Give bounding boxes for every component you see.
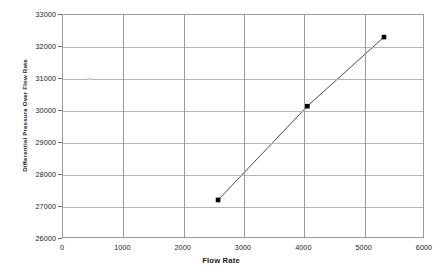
plot-area: [62, 14, 424, 238]
y-tick-label: 33000: [12, 10, 56, 19]
y-tick-label: 29000: [12, 138, 56, 147]
y-axis-title: Differential Pressure Over Flow Rate: [21, 26, 28, 206]
y-tick-label: 31000: [12, 74, 56, 83]
y-tick-mark: [58, 206, 62, 207]
y-tick-label: 27000: [12, 202, 56, 211]
y-gridline: [63, 175, 423, 176]
y-tick-label: 30000: [12, 106, 56, 115]
data-point-marker: [216, 198, 221, 203]
scan-artifact: [87, 78, 91, 80]
x-gridline: [365, 15, 366, 237]
y-tick-mark: [58, 174, 62, 175]
x-gridline: [123, 15, 124, 237]
x-tick-label: 1000: [114, 243, 130, 252]
y-tick-label: 28000: [12, 170, 56, 179]
y-tick-mark: [58, 46, 62, 47]
x-axis-title: Flow Rate: [0, 256, 442, 265]
y-gridline: [63, 79, 423, 80]
x-tick-label: 0: [60, 243, 64, 252]
chart-container: Differential Pressure Over Flow Rate Flo…: [0, 0, 442, 274]
y-tick-label: 26000: [12, 234, 56, 243]
x-tick-label: 6000: [416, 243, 432, 252]
x-tick-label: 3000: [235, 243, 251, 252]
y-tick-mark: [58, 142, 62, 143]
y-gridline: [63, 47, 423, 48]
y-gridline: [63, 207, 423, 208]
y-tick-mark: [58, 238, 62, 239]
data-point-marker: [305, 104, 310, 109]
x-tick-label: 4000: [295, 243, 311, 252]
y-gridline: [63, 143, 423, 144]
x-gridline: [244, 15, 245, 237]
y-gridline: [63, 111, 423, 112]
x-tick-label: 2000: [174, 243, 190, 252]
y-tick-mark: [58, 78, 62, 79]
y-tick-mark: [58, 110, 62, 111]
x-tick-label: 5000: [355, 243, 371, 252]
x-gridline: [304, 15, 305, 237]
y-tick-label: 32000: [12, 42, 56, 51]
x-gridline: [184, 15, 185, 237]
y-tick-mark: [58, 14, 62, 15]
data-point-marker: [382, 35, 387, 40]
